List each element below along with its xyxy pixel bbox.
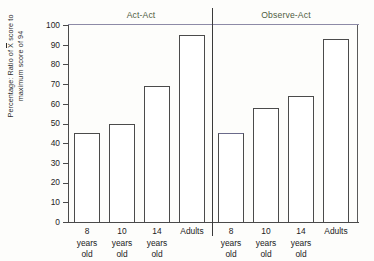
y-tick-label: 90 xyxy=(34,41,60,49)
bar-act-act-1 xyxy=(109,124,135,223)
panel-title-act-act: Act-Act xyxy=(70,10,212,20)
bar-observe-act-1 xyxy=(253,108,279,222)
panel-divider xyxy=(212,8,213,236)
bar-chart-figure: Percentage: Ratio of X score to maximum … xyxy=(0,0,374,261)
bar-act-act-2 xyxy=(144,86,170,222)
y-tick-label: 50 xyxy=(34,119,60,127)
y-tick-label: 70 xyxy=(34,80,60,88)
x-tick-label-line: years xyxy=(277,238,325,250)
y-tick-label: 30 xyxy=(34,159,60,167)
x-tick-label-line: Adults xyxy=(312,226,360,238)
y-tick-mark xyxy=(63,104,68,105)
bar-act-act-0 xyxy=(74,133,100,222)
plot-right-border xyxy=(357,25,358,222)
y-tick-label: 40 xyxy=(34,139,60,147)
y-tick-mark xyxy=(63,45,68,46)
x-tick-label-observe-act-3: Adults xyxy=(312,226,360,238)
y-tick-mark xyxy=(63,143,68,144)
y-tick-mark xyxy=(63,183,68,184)
y-tick-label: 10 xyxy=(34,198,60,206)
y-tick-label: 80 xyxy=(34,60,60,68)
y-tick-mark xyxy=(63,163,68,164)
y-tick-mark xyxy=(63,25,68,26)
y-tick-mark xyxy=(63,64,68,65)
y-tick-mark xyxy=(63,124,68,125)
y-axis-label: Percentage: Ratio of X score to maximum … xyxy=(6,0,26,166)
x-tick-label-line: old xyxy=(277,249,325,261)
bar-observe-act-3 xyxy=(323,39,349,222)
bar-act-act-3 xyxy=(179,35,205,222)
panel-title-observe-act: Observe-Act xyxy=(215,10,357,20)
bar-observe-act-0 xyxy=(218,133,244,222)
y-tick-label: 100 xyxy=(34,21,60,29)
y-tick-mark xyxy=(63,84,68,85)
y-tick-label: 0 xyxy=(34,218,60,226)
x-tick-label-line: years xyxy=(133,238,181,250)
y-tick-mark xyxy=(63,222,68,223)
y-tick-mark xyxy=(63,202,68,203)
x-tick-label-line: old xyxy=(133,249,181,261)
bar-observe-act-2 xyxy=(288,96,314,222)
x-bar-symbol: X xyxy=(6,43,15,48)
y-tick-label: 20 xyxy=(34,178,60,186)
y-tick-label: 60 xyxy=(34,100,60,108)
y-axis-label-line1: Percentage: Ratio of X score to xyxy=(6,15,15,118)
y-axis-label-line2: maximum score of 94 xyxy=(16,0,26,166)
